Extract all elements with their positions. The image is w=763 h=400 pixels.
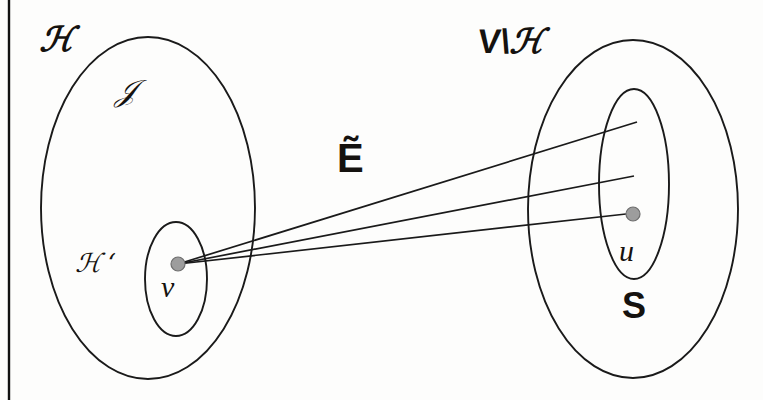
right-inner-set-ellipse — [599, 89, 669, 279]
vertex-v-label: v — [161, 272, 174, 302]
vertex-u-label: u — [619, 236, 634, 266]
right-outer-set-label-prefix: V\ — [476, 22, 512, 60]
right-outer-set-label-suffix: ℋ — [508, 21, 546, 61]
left-inner-set-ellipse — [145, 222, 207, 336]
left-inner-set-label: ℋ ‘ — [75, 250, 116, 276]
edge-set-label: Ẽ — [337, 138, 364, 178]
left-outer-set-label: ℋ — [38, 22, 76, 56]
figure-canvas: ℋ 𝒥 ℋ ‘ v Ẽ V\ℋ u S — [0, 0, 763, 400]
vertex-v-node — [171, 257, 185, 271]
diagram-svg — [0, 0, 763, 400]
left-region-label: 𝒥 — [115, 76, 138, 106]
left-outer-set-ellipse — [41, 37, 255, 379]
vertex-u-node — [626, 207, 640, 221]
right-outer-set-label: V\ℋ — [476, 24, 546, 58]
right-inner-set-label: S — [622, 288, 646, 324]
